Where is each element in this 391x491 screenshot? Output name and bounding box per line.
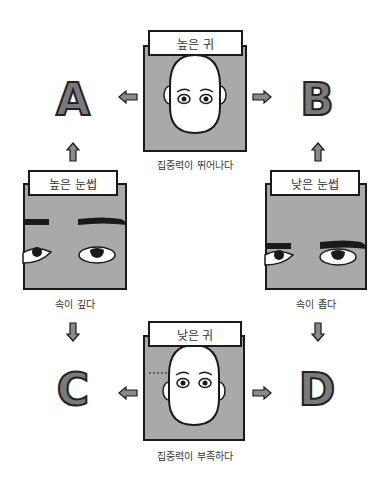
arrow-down-icon bbox=[311, 322, 325, 342]
outcome-c: C bbox=[48, 368, 98, 412]
caption-high-eyebrows: 속이 깊다 bbox=[10, 296, 140, 311]
arrow-right-icon bbox=[252, 90, 272, 104]
label-low-ears: 낮은 귀 bbox=[148, 321, 242, 347]
face-low-ears-icon bbox=[143, 335, 245, 441]
eyes-low-eyebrows-icon bbox=[265, 183, 367, 290]
label-high-eyebrows: 높은 눈썹 bbox=[28, 170, 118, 196]
outcome-b: B bbox=[292, 78, 342, 122]
arrow-down-icon bbox=[66, 322, 80, 342]
caption-high-ears: 집중력이 뛰어나다 bbox=[130, 157, 260, 172]
caption-low-ears: 집중력이 부족하다 bbox=[130, 448, 260, 463]
arrow-left-icon bbox=[118, 386, 138, 400]
outcome-d: D bbox=[292, 368, 342, 412]
eyes-high-eyebrows-icon bbox=[23, 183, 127, 290]
label-low-eyebrows: 낮은 눈썹 bbox=[270, 170, 360, 196]
outcome-a: A bbox=[48, 78, 98, 122]
arrow-up-icon bbox=[311, 142, 325, 162]
arrow-up-icon bbox=[66, 142, 80, 162]
caption-low-eyebrows: 속이 좁다 bbox=[251, 296, 381, 311]
arrow-left-icon bbox=[118, 90, 138, 104]
label-high-ears: 높은 귀 bbox=[148, 30, 243, 56]
arrow-right-icon bbox=[252, 386, 272, 400]
face-high-ears-icon bbox=[143, 45, 247, 152]
